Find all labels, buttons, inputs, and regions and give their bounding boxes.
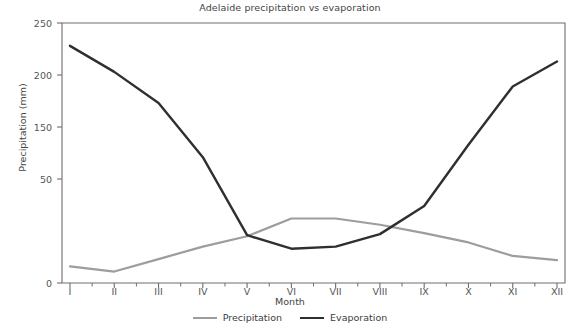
chart-container: Adelaide precipitation vs evaporation Pr… xyxy=(0,0,580,335)
legend-item[interactable]: Precipitation xyxy=(193,312,282,323)
series-line-precipitation xyxy=(70,219,557,272)
legend-label: Evaporation xyxy=(330,312,387,323)
plot-frame xyxy=(62,23,565,283)
legend-item[interactable]: Evaporation xyxy=(300,312,387,323)
chart-legend: PrecipitationEvaporation xyxy=(0,312,580,323)
plot-area xyxy=(0,0,580,335)
legend-swatch-icon xyxy=(300,317,324,319)
legend-label: Precipitation xyxy=(223,312,282,323)
legend-swatch-icon xyxy=(193,317,217,319)
